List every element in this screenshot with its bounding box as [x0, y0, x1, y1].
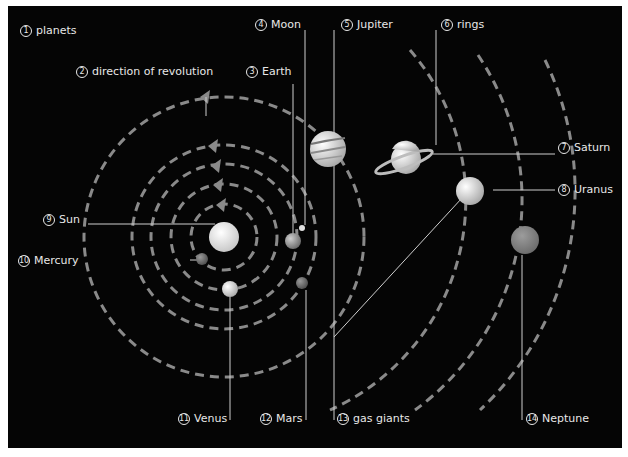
arrow-icon [213, 178, 223, 192]
label-sun: 9 Sun [43, 213, 80, 227]
arrow-icon [211, 159, 221, 173]
label-gas-giants: 13 gas giants [337, 412, 410, 426]
arrow-icon [216, 198, 226, 212]
label-uranus: 8 Uranus [558, 183, 613, 197]
label-text: gas giants [353, 412, 410, 426]
arrow-icon [208, 139, 218, 153]
label-number: 6 [441, 19, 453, 31]
label-planets: 1 planets [20, 24, 77, 38]
direction-arrows [200, 90, 226, 212]
planet-earth [285, 233, 301, 249]
label-number: 9 [43, 214, 55, 226]
label-number: 5 [341, 19, 353, 31]
planet-mars [296, 277, 308, 289]
planet-mercury [196, 253, 208, 265]
label-number: 3 [246, 66, 258, 78]
label-saturn: 7 Saturn [558, 141, 610, 155]
label-text: Mercury [34, 254, 79, 268]
label-jupiter: 5 Jupiter [341, 18, 393, 32]
label-number: 4 [255, 19, 267, 31]
label-number: 14 [526, 413, 538, 425]
moon [299, 225, 305, 231]
planet-venus [222, 281, 238, 297]
label-text: Saturn [574, 141, 610, 155]
label-text: Neptune [542, 412, 589, 426]
label-number: 10 [18, 255, 30, 267]
label-text: Sun [59, 213, 80, 227]
label-venus: 11 Venus [178, 412, 227, 426]
label-mercury: 10 Mercury [18, 254, 79, 268]
label-direction-of-revolution: 2 direction of revolution [76, 65, 213, 79]
label-neptune: 14 Neptune [526, 412, 589, 426]
label-text: Earth [262, 65, 292, 79]
planet-neptune [511, 226, 539, 254]
label-text: Uranus [574, 183, 613, 197]
planet-saturn [374, 141, 434, 178]
planet-uranus [456, 177, 484, 205]
arrow-icon [200, 90, 210, 104]
label-number: 7 [558, 142, 570, 154]
label-number: 12 [260, 413, 272, 425]
planet-jupiter [310, 131, 346, 167]
orbit-uranus [415, 55, 522, 410]
label-number: 11 [178, 413, 190, 425]
label-mars: 12 Mars [260, 412, 303, 426]
label-number: 1 [20, 25, 32, 37]
label-number: 8 [558, 184, 570, 196]
label-text: rings [457, 18, 484, 32]
label-rings: 6 rings [441, 18, 484, 32]
orbit-saturn [330, 50, 466, 410]
label-text: direction of revolution [92, 65, 213, 79]
label-earth: 3 Earth [246, 65, 292, 79]
label-text: Jupiter [357, 18, 393, 32]
label-moon: 4 Moon [255, 18, 301, 32]
label-text: planets [36, 24, 77, 38]
label-number: 2 [76, 66, 88, 78]
label-text: Mars [276, 412, 303, 426]
label-text: Venus [194, 412, 227, 426]
sun [209, 222, 239, 252]
label-number: 13 [337, 413, 349, 425]
label-text: Moon [271, 18, 301, 32]
